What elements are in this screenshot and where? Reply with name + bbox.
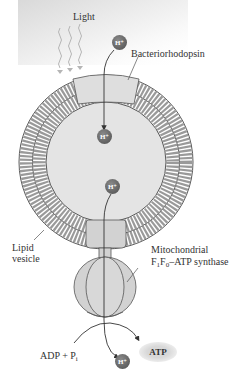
lipid-vesicle-label-line1: Lipid: [12, 242, 34, 253]
proton-release-arrow: [104, 320, 117, 357]
atp-synthase-stalk: [99, 248, 111, 258]
bacteriorhodopsin-protein: [73, 75, 139, 105]
light-label: Light: [73, 11, 95, 22]
proton-released: H⁺: [115, 354, 130, 369]
diagram-canvas: [0, 0, 246, 379]
atp-synthase-label-line2: F1F0–ATP synthase: [151, 256, 228, 271]
atp-product: ATP: [139, 342, 177, 362]
proton-inside-bottom: H⁺: [105, 179, 120, 194]
proton-outside: H⁺: [112, 35, 127, 50]
proton-inside-top: H⁺: [97, 129, 112, 144]
lipid-vesicle-leader: [34, 230, 44, 240]
lipid-vesicle-label-line2: vesicle: [12, 253, 40, 264]
bacteriorhodopsin-label: Bacteriorhodopsin: [131, 48, 205, 59]
atp-synthase-label-line1: Mitochondrial: [151, 244, 208, 255]
f0-subunit: [86, 220, 126, 248]
f1-subunit: [74, 257, 136, 317]
adp-pi-label: ADP + Pi: [40, 350, 78, 365]
